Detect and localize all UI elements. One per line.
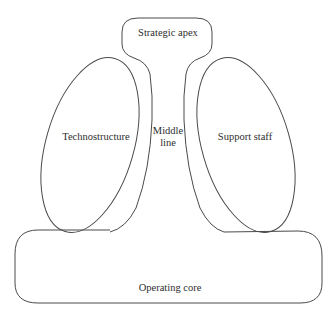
middle-line-label: Middle line xyxy=(148,125,188,149)
operating-core-label: Operating core xyxy=(130,282,210,294)
support-staff-shape xyxy=(179,46,313,243)
technostructure-label: Technostructure xyxy=(56,131,136,143)
mintzberg-organization-diagram: Strategic apex Technostructure Middle li… xyxy=(0,0,336,313)
technostructure-shape xyxy=(23,46,157,243)
diagram-outlines xyxy=(0,0,336,313)
support-staff-label: Support staff xyxy=(210,131,280,143)
middle-line-label-line1: Middle xyxy=(148,125,188,137)
middle-line-label-line2: line xyxy=(148,137,188,149)
strategic-apex-label: Strategic apex xyxy=(128,27,208,39)
